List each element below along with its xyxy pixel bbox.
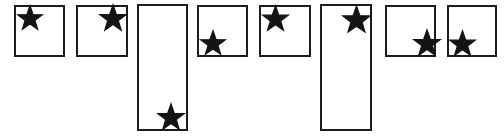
shape-box-4	[197, 5, 248, 57]
shape-box-8	[447, 5, 497, 57]
shape-box-2	[76, 5, 128, 57]
shape-box-5	[259, 5, 311, 57]
shape-box-6	[320, 4, 372, 131]
shape-box-7	[385, 5, 436, 57]
shape-box-3	[137, 4, 188, 131]
shape-canvas	[0, 0, 504, 136]
shape-box-1	[14, 5, 65, 57]
